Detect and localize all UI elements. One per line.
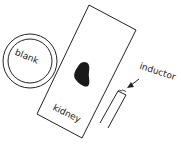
blank-disc: blank [3, 34, 57, 88]
inductor-label: inductor [138, 61, 177, 82]
blank-label: blank [14, 47, 41, 66]
inductor [100, 90, 126, 128]
diagram-canvas: blank kidney inductor [0, 0, 181, 148]
inductor-arrow-icon [127, 79, 139, 88]
